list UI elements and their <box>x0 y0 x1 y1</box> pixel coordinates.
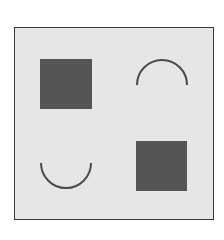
bottom-right-square <box>136 141 187 191</box>
diagram-frame <box>14 27 214 220</box>
top-left-square <box>40 59 92 109</box>
